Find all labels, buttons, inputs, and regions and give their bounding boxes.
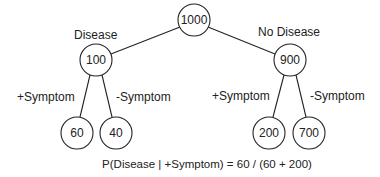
label-no-disease-positive: +Symptom (212, 89, 270, 103)
edge-disease-negative (102, 75, 112, 117)
label-no-disease: No Disease (258, 25, 320, 39)
node-disease-negative-value: 40 (109, 126, 123, 140)
node-no-disease-positive-value: 200 (259, 126, 279, 140)
label-no-disease-negative: -Symptom (310, 89, 365, 103)
edge-root-disease (111, 27, 180, 54)
label-disease-negative: -Symptom (116, 90, 171, 104)
node-no-disease: 900 (274, 44, 306, 76)
probability-tree-diagram: 1000 100 900 60 40 200 700 Disease No Di… (0, 0, 380, 177)
node-no-disease-negative: 700 (293, 117, 325, 149)
edge-disease-positive (80, 75, 90, 117)
node-no-disease-negative-value: 700 (299, 126, 319, 140)
node-disease-negative: 40 (100, 117, 132, 149)
node-disease: 100 (80, 44, 112, 76)
label-disease-positive: +Symptom (17, 90, 75, 104)
label-disease: Disease (74, 28, 118, 42)
edge-no-disease-positive (273, 75, 284, 117)
node-no-disease-value: 900 (280, 53, 300, 67)
edge-no-disease-negative (296, 75, 306, 117)
formula-text: P(Disease | +Symptom) = 60 / (60 + 200) (102, 158, 312, 170)
node-no-disease-positive: 200 (253, 117, 285, 149)
node-root: 1000 (178, 4, 210, 36)
node-disease-positive: 60 (61, 117, 93, 149)
node-disease-value: 100 (86, 53, 106, 67)
node-disease-positive-value: 60 (70, 126, 84, 140)
node-root-value: 1000 (181, 13, 208, 27)
